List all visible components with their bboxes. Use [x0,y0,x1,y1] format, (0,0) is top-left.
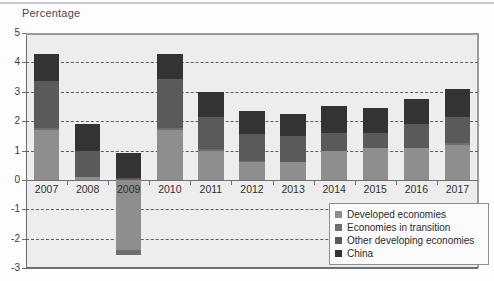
bar-segment [157,128,182,129]
y-axis-tick-label: -3 [0,263,20,273]
y-axis-tick-mark [22,151,26,152]
chart-title: Percentage [22,7,80,19]
legend-item[interactable]: Economies in transition [335,221,483,233]
y-axis-tick-label: 3 [0,87,20,97]
x-axis-label: 2011 [190,184,231,195]
bar-segment [363,133,388,148]
bar-segment [445,143,470,144]
bar-segment [157,79,182,129]
y-axis-tick-label: 4 [0,57,20,67]
y-axis-tick-mark [22,92,26,93]
bar-segment [445,145,470,180]
legend-swatch-icon [335,237,342,244]
y-axis-tick-label: 5 [0,28,20,38]
bar-segment [198,149,223,150]
y-axis-tick-mark [22,268,26,269]
x-axis-label: 2010 [149,184,190,195]
chart-container: Percentage 543210-1-2-3 2007200820092010… [0,0,494,281]
plot-frame-bottom [26,267,478,269]
bar-segment [75,151,100,177]
gridline [26,92,478,93]
x-axis-label: 2012 [231,184,272,195]
legend-item[interactable]: China [335,247,483,259]
bar-segment [445,89,470,117]
bar-segment [239,134,264,160]
bar-segment [198,117,223,149]
legend-item-label: China [347,248,373,259]
y-axis-tick-label: 1 [0,146,20,156]
legend-swatch-icon [335,250,342,257]
legend-item-label: Other developing economies [347,235,474,246]
bar-segment [321,106,346,132]
bar-segment [75,177,100,180]
x-axis-label: 2017 [437,184,478,195]
x-axis-label: 2007 [26,184,67,195]
y-axis-tick-mark [22,121,26,122]
bar-segment [116,250,141,254]
legend-item-label: Economies in transition [347,222,450,233]
bar-segment [321,151,346,180]
bar-segment [198,151,223,180]
x-axis-label: 2015 [355,184,396,195]
bar-segment [34,128,59,129]
bar-segment [34,81,59,128]
legend-swatch-icon [335,224,342,231]
top-divider [0,2,494,4]
bar-segment [239,162,264,180]
bar-segment [239,161,264,162]
y-axis-tick-label: 0 [0,175,20,185]
y-axis-tick-mark [22,62,26,63]
zero-axis-line [26,180,478,181]
x-axis-label: 2014 [314,184,355,195]
bar-segment [34,54,59,82]
y-axis-tick-mark [22,239,26,240]
legend-swatch-icon [335,211,342,218]
bar-segment [198,92,223,117]
y-axis-tick-mark [22,209,26,210]
y-axis-tick-label: 2 [0,116,20,126]
x-axis-label: 2013 [273,184,314,195]
bar-segment [445,117,470,143]
gridline [26,62,478,63]
y-axis-tick-label: -2 [0,234,20,244]
legend-item[interactable]: Other developing economies [335,234,483,246]
bar-segment [404,148,429,180]
legend-item-label: Developed economies [347,209,446,220]
legend-item[interactable]: Developed economies [335,208,483,220]
x-axis-label: 2009 [108,184,149,195]
bar-segment [116,178,141,179]
bar-segment [363,108,388,133]
chart-legend: Developed economiesEconomies in transiti… [329,203,489,265]
bar-segment [280,136,305,162]
bar-segment [321,133,346,151]
bar-segment [363,180,388,181]
bar-segment [75,124,100,150]
bar-segment [363,148,388,180]
plot-frame-top [26,33,478,35]
bar-segment [280,114,305,136]
x-axis-label: 2016 [396,184,437,195]
bar-segment [239,111,264,135]
bar-segment [34,130,59,180]
y-axis-tick-mark [22,180,26,181]
y-axis-tick-label: -1 [0,204,20,214]
bar-segment [116,153,141,178]
bar-segment [404,99,429,124]
bar-segment [280,162,305,180]
x-axis-label: 2008 [67,184,108,195]
bar-segment [404,124,429,148]
bar-segment [157,130,182,180]
y-axis-tick-mark [22,33,26,34]
bar-segment [157,54,182,79]
